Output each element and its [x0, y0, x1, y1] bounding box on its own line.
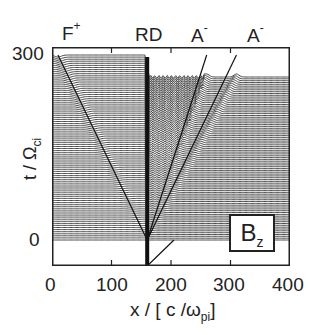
annotation-a-minus-1: A-	[191, 24, 208, 47]
annotation-a-minus-2: A-	[247, 24, 264, 47]
annotation-f-plus: F+	[62, 22, 81, 45]
x-tick-200: 200	[155, 274, 187, 296]
x-tick-300: 300	[213, 274, 245, 296]
y-axis-label: t / Ωci	[20, 138, 44, 180]
x-tick-0: 0	[45, 274, 56, 296]
panel-label-bz: Bz	[229, 214, 275, 252]
y-tick-300: 300	[12, 43, 44, 65]
annotation-rd: RD	[135, 24, 162, 46]
x-tick-400: 400	[272, 274, 304, 296]
x-tick-100: 100	[96, 274, 128, 296]
x-axis-label: x / [ c /ωpi]	[130, 299, 215, 324]
y-tick-0: 0	[29, 229, 40, 251]
